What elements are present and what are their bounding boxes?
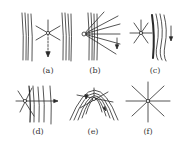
star-icon xyxy=(36,20,60,57)
star-icon xyxy=(16,88,54,116)
line-bundle-left xyxy=(22,13,32,61)
arrow-down-icon xyxy=(170,26,173,41)
vertical-lines xyxy=(29,86,51,124)
line-bundle-right xyxy=(62,13,72,61)
panel-c-drawing xyxy=(130,14,173,61)
panel-e-label: (e) xyxy=(88,127,99,136)
panel-a-label: (a) xyxy=(42,66,53,75)
panel-d-label: (d) xyxy=(32,127,43,136)
panel-f-label: (f) xyxy=(143,127,152,136)
panel-f-drawing xyxy=(126,82,170,122)
panel-a-drawing xyxy=(22,13,72,61)
panel-b-drawing xyxy=(82,12,120,60)
star-icon xyxy=(126,82,170,122)
wavy-line-bundle xyxy=(152,14,166,61)
panel-b-label: (b) xyxy=(89,66,100,75)
panel-d-drawing xyxy=(16,86,58,124)
star-icon xyxy=(130,20,152,43)
panel-c-label: (c) xyxy=(150,66,161,75)
panel-e-drawing xyxy=(70,88,118,120)
arrow-right-icon xyxy=(54,100,58,103)
fan-rays xyxy=(82,12,120,54)
